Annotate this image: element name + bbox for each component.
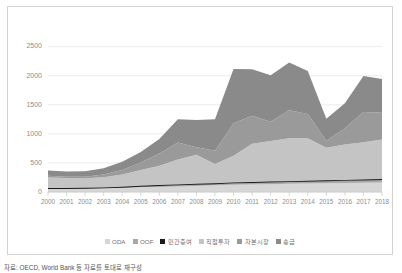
x-axis-tick-label: 2002	[78, 198, 93, 205]
x-axis-tick-label: 2001	[60, 198, 75, 205]
legend-swatch-icon	[160, 239, 165, 244]
x-axis-tick-label: 2008	[189, 198, 204, 205]
x-axis-tick-label: 2005	[134, 198, 149, 205]
legend-item-label: OOF	[140, 238, 153, 245]
x-axis-tick-label: 2013	[282, 198, 297, 205]
chart-figure: 0500100015002000250020002001200220032004…	[7, 6, 393, 255]
stacked-area-chart: 0500100015002000250020002001200220032004…	[8, 7, 392, 254]
figure-caption: 자료: OECD, World Bank 등 자료를 토대로 재구성	[4, 263, 398, 272]
x-axis-tick-label: 2004	[115, 198, 130, 205]
legend-item-label: ODA	[112, 238, 125, 245]
legend-swatch-icon	[105, 239, 110, 244]
x-axis-tick-label: 2007	[171, 198, 186, 205]
legend-item[interactable]: ODA	[105, 238, 126, 245]
x-axis-tick-label: 2003	[97, 198, 112, 205]
x-axis-tick-label: 2006	[152, 198, 167, 205]
x-axis-tick-label: 2010	[227, 198, 242, 205]
legend-item[interactable]: 송금	[276, 237, 296, 246]
y-axis-tick-label: 1000	[26, 130, 42, 137]
x-axis-tick-label: 2000	[41, 198, 56, 205]
x-axis-tick-label: 2012	[264, 198, 279, 205]
legend-item-label: 자본시장	[245, 237, 269, 246]
x-axis-tick-label: 2016	[338, 198, 353, 205]
legend-item-label: 송금	[283, 237, 295, 246]
legend-item-label: 민간증여	[168, 237, 192, 246]
legend-swatch-icon	[133, 239, 138, 244]
y-axis-tick-label: 1500	[26, 101, 42, 108]
legend-swatch-icon	[199, 239, 204, 244]
y-axis-tick-label: 500	[30, 159, 42, 166]
legend-item-label: 직접투자	[206, 237, 230, 246]
legend-swatch-icon	[237, 239, 242, 244]
legend-item[interactable]: 민간증여	[160, 237, 192, 246]
y-axis-tick-label: 0	[38, 188, 42, 195]
chart-plot-area: 0500100015002000250020002001200220032004…	[8, 7, 392, 254]
legend-item[interactable]: 직접투자	[199, 237, 231, 246]
legend-swatch-icon	[276, 239, 281, 244]
x-axis-tick-label: 2014	[301, 198, 316, 205]
x-axis-tick-label: 2011	[245, 198, 259, 205]
legend-item[interactable]: OOF	[133, 238, 154, 245]
y-axis-tick-label: 2500	[26, 42, 42, 49]
x-axis-tick-label: 2015	[319, 198, 334, 205]
chart-legend: ODAOOF민간증여직접투자자본시장송금	[8, 237, 392, 246]
x-axis-tick-label: 2017	[356, 198, 371, 205]
x-axis-tick-label: 2018	[375, 198, 390, 205]
legend-item[interactable]: 자본시장	[237, 237, 269, 246]
x-axis-tick-label: 2009	[208, 198, 223, 205]
y-axis-tick-label: 2000	[26, 72, 42, 79]
